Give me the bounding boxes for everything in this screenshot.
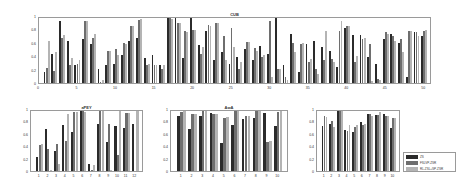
bar: [102, 111, 104, 171]
legend-label: ZS: [420, 155, 424, 159]
bar: [76, 112, 78, 171]
chart-title: aPEY: [30, 105, 143, 110]
y-tick-label: 0.6: [18, 133, 28, 137]
x-tick-label: 15: [149, 86, 159, 90]
bar: [110, 170, 112, 171]
bar: [226, 117, 229, 171]
y-tick-label: 0.2: [304, 158, 314, 162]
x-tick-label: 10: [272, 174, 282, 178]
bar: [248, 42, 250, 83]
bar: [183, 111, 186, 171]
bar: [263, 55, 265, 83]
x-tick-label: 40: [341, 86, 351, 90]
bar: [379, 112, 381, 171]
y-tick-label: 0.4: [158, 145, 168, 149]
bar: [50, 170, 52, 171]
bar: [379, 80, 381, 83]
bar: [256, 51, 258, 84]
bar: [394, 41, 396, 83]
y-tick-label: 0.6: [26, 42, 36, 46]
bar: [132, 124, 134, 171]
x-tick-label: 5: [219, 174, 229, 178]
bar: [71, 58, 73, 83]
y-tick-label: 0.4: [26, 55, 36, 59]
bar: [269, 21, 271, 83]
bar: [41, 144, 43, 171]
legend: ZS FSLVP-ZSR RL-ZSL+SP-ZSR: [403, 152, 456, 172]
bar: [269, 141, 272, 171]
bar: [364, 124, 366, 171]
bar: [333, 62, 335, 83]
bar: [294, 52, 296, 83]
bar: [215, 114, 218, 171]
bar: [325, 31, 327, 83]
x-tick-label: 1: [176, 174, 186, 178]
bar: [117, 55, 119, 83]
bar: [237, 111, 240, 171]
bar: [108, 124, 110, 171]
x-tick-label: 50: [418, 86, 428, 90]
y-tick-label: 0.8: [158, 120, 168, 124]
legend-item-rl: RL-ZSL+SP-ZSR: [406, 166, 443, 171]
x-tick-label: 10: [387, 174, 397, 178]
bar: [79, 60, 81, 83]
y-tick-label: 0.8: [26, 28, 36, 32]
bar: [84, 112, 86, 171]
bar: [86, 21, 88, 83]
x-tick-label: 6: [229, 174, 239, 178]
bar: [371, 81, 373, 83]
y-tick-label: 0.6: [158, 133, 168, 137]
axes-awa: [170, 110, 288, 172]
bar: [248, 116, 251, 171]
axes-cub: [38, 17, 431, 84]
bar: [341, 21, 343, 83]
bar: [349, 125, 351, 171]
bar: [47, 149, 49, 171]
bar: [233, 47, 235, 83]
bar: [356, 56, 358, 83]
bar: [387, 116, 389, 171]
chart-title: AwA: [170, 105, 288, 110]
x-tick-label: 12: [129, 174, 139, 178]
bar: [279, 69, 281, 83]
legend-label: FSLVP-ZSR: [420, 161, 436, 165]
bar: [132, 26, 134, 83]
bar: [109, 51, 111, 84]
x-tick-label: 45: [380, 86, 390, 90]
y-tick-label: 0.2: [158, 158, 168, 162]
x-tick-label: 5: [72, 86, 82, 90]
bar: [163, 65, 165, 83]
bar: [156, 65, 158, 83]
bar: [102, 80, 104, 83]
x-tick-label: 25: [226, 86, 236, 90]
bar: [55, 52, 57, 83]
bar: [333, 127, 335, 171]
bar: [58, 164, 60, 171]
bar: [202, 47, 204, 83]
bar: [348, 26, 350, 83]
bar: [410, 31, 412, 83]
axes-panel-3: [316, 110, 400, 172]
bar: [128, 113, 130, 171]
bar: [364, 38, 366, 84]
bar: [210, 26, 212, 83]
y-tick-label: 0.4: [304, 145, 314, 149]
x-tick-label: 4: [208, 174, 218, 178]
x-tick-label: 9: [262, 174, 272, 178]
bar: [63, 35, 65, 83]
bar: [280, 111, 283, 171]
legend-swatch: [406, 167, 418, 171]
bar: [194, 30, 196, 83]
bar: [326, 117, 328, 171]
bar: [287, 80, 289, 83]
legend-swatch: [406, 155, 418, 159]
y-tick-label: 0.8: [18, 120, 28, 124]
x-tick-label: 3: [197, 174, 207, 178]
legend-item-fslvp: FSLVP-ZSR: [406, 160, 436, 165]
bar: [119, 111, 121, 171]
y-tick-label: 1: [26, 15, 36, 19]
x-tick-label: 30: [264, 86, 274, 90]
bar: [425, 30, 427, 83]
bar: [94, 34, 96, 83]
y-tick-label: 0: [158, 170, 168, 174]
